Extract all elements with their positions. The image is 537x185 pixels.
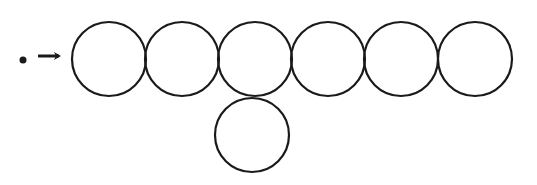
circle-top-6 xyxy=(438,22,512,96)
circle-top-5 xyxy=(364,22,438,96)
circle-top-4 xyxy=(291,22,365,96)
circle-branch-1 xyxy=(215,98,289,172)
circle-top-3 xyxy=(218,22,292,96)
circle-top-2 xyxy=(145,22,219,96)
circle-chain-diagram xyxy=(0,0,537,185)
diagram-canvas xyxy=(0,0,537,185)
start-dot xyxy=(20,57,27,64)
circle-top-1 xyxy=(72,22,146,96)
